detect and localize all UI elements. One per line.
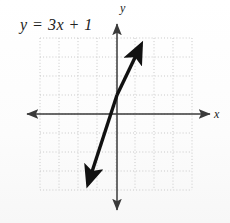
line-segment-upper bbox=[117, 45, 141, 95]
axes bbox=[27, 24, 210, 210]
x-axis-label: x bbox=[214, 107, 219, 122]
y-axis-label: y bbox=[120, 1, 125, 16]
equation-label: y = 3x + 1 bbox=[20, 16, 93, 34]
graph-figure: y = 3x + 1 x y bbox=[0, 0, 230, 223]
